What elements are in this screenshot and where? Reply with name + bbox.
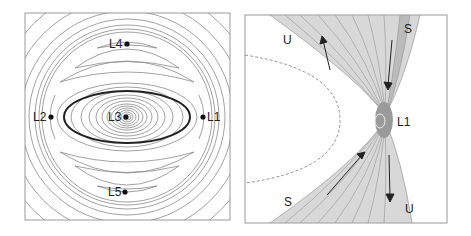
l4-label: L4 — [109, 37, 123, 51]
l5-label: L5 — [108, 185, 122, 199]
l2-point — [48, 114, 53, 119]
u-label-bottom: U — [405, 202, 414, 216]
l1-label: L1 — [207, 110, 221, 124]
right-manifold-panel: U S L1 S U — [245, 15, 447, 223]
l1-label-right: L1 — [397, 115, 411, 129]
l3-label: L3 — [108, 110, 122, 124]
left-contour-panel: L4 L2 L3 L1 L5 — [0, 0, 277, 236]
s-label-bottom: S — [284, 195, 292, 209]
l1-point — [200, 114, 205, 119]
l5-point — [122, 189, 127, 194]
figure: L4 L2 L3 L1 L5 — [0, 0, 471, 236]
l2-label: L2 — [33, 110, 47, 124]
l4-point — [124, 41, 129, 46]
l3-point — [123, 114, 128, 119]
u-label-top: U — [283, 33, 292, 47]
s-label-top: S — [404, 22, 412, 36]
